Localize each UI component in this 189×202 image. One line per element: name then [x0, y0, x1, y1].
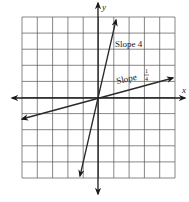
x-axis-label: x [181, 85, 186, 95]
slope-quarter-numerator: 1 [145, 68, 148, 74]
slope-diagram: x y Slope 4 Slope 1 4 [0, 0, 189, 202]
slope-quarter-label: Slope 1 4 [115, 68, 149, 86]
slope-4-label: Slope 4 [115, 39, 143, 49]
y-axis-label: y [101, 2, 106, 12]
slope-quarter-denominator: 4 [145, 76, 148, 82]
slope-quarter-prefix: Slope [115, 72, 137, 86]
